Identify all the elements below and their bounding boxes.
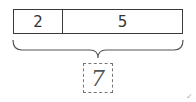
total-value: 7 — [91, 66, 105, 91]
check-mark-icon: ✓ — [186, 92, 193, 101]
total-box: 7 — [83, 63, 113, 93]
